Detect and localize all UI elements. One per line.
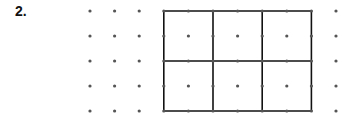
- grid-dot: [211, 59, 214, 62]
- grid-dot: [334, 59, 337, 62]
- grid-dot: [162, 84, 165, 87]
- grid-dot: [285, 84, 288, 87]
- grid-dot: [138, 34, 141, 37]
- grid-dot: [162, 34, 165, 37]
- grid-dot: [236, 34, 239, 37]
- dot-grid-diagram: [0, 0, 357, 121]
- grid-dot: [285, 34, 288, 37]
- grid-dot: [334, 84, 337, 87]
- grid-dot: [88, 109, 91, 112]
- grid-dot: [88, 34, 91, 37]
- grid-dot: [261, 34, 264, 37]
- grid-dot: [211, 84, 214, 87]
- grid-dot: [285, 109, 288, 112]
- grid-dot: [285, 9, 288, 12]
- grid-dot: [261, 9, 264, 12]
- grid-dot: [236, 9, 239, 12]
- grid-dot: [310, 34, 313, 37]
- grid-dot: [236, 59, 239, 62]
- grid-dot: [88, 84, 91, 87]
- grid-dot: [138, 109, 141, 112]
- grid-dot: [261, 59, 264, 62]
- grid-dot: [113, 84, 116, 87]
- grid-dot: [334, 109, 337, 112]
- grid-dot: [334, 34, 337, 37]
- grid-dot: [211, 9, 214, 12]
- grid-dot: [261, 109, 264, 112]
- grid-dot: [88, 9, 91, 12]
- grid-dot: [310, 9, 313, 12]
- grid-dot: [162, 59, 165, 62]
- grid-dot: [310, 109, 313, 112]
- grid-dot: [187, 9, 190, 12]
- grid-dot: [285, 59, 288, 62]
- grid-dot: [236, 84, 239, 87]
- grid-dot: [187, 84, 190, 87]
- grid-dot: [261, 84, 264, 87]
- grid-dot: [310, 59, 313, 62]
- grid-dot: [310, 84, 313, 87]
- grid-dot: [211, 34, 214, 37]
- grid-dot: [334, 9, 337, 12]
- grid-dot: [113, 34, 116, 37]
- grid-dot: [113, 9, 116, 12]
- grid-dot: [187, 59, 190, 62]
- grid-dot: [88, 59, 91, 62]
- grid-dot: [162, 9, 165, 12]
- grid-dot: [211, 109, 214, 112]
- grid-dot: [113, 109, 116, 112]
- grid-dot: [187, 109, 190, 112]
- grid-dot: [113, 59, 116, 62]
- grid-dot: [138, 84, 141, 87]
- grid-dot: [138, 9, 141, 12]
- grid-dot: [236, 109, 239, 112]
- grid-dot: [187, 34, 190, 37]
- grid-dot: [138, 59, 141, 62]
- grid-dot: [162, 109, 165, 112]
